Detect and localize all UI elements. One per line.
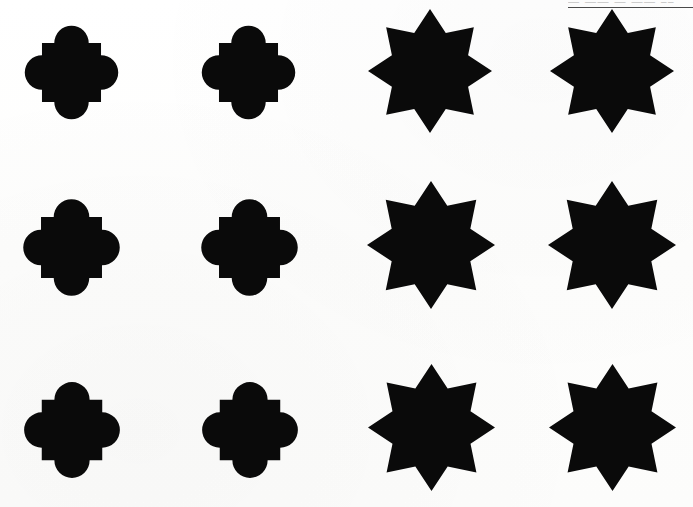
- lobed-square-path: [202, 26, 295, 119]
- octagram-star-shape-r3c3: [368, 364, 495, 491]
- lobed-square-glyph: [9, 367, 135, 493]
- lobed-square-shape-r3c2: [187, 367, 313, 493]
- octagram-star-shape-r1c3: [368, 9, 492, 133]
- octagram-star-path: [368, 364, 495, 491]
- octagram-star-glyph: [548, 181, 676, 309]
- octagram-star-glyph: [368, 364, 495, 491]
- lobed-square-path: [23, 199, 120, 296]
- lobed-square-shape-r1c1: [10, 11, 133, 134]
- header-rule: [568, 7, 693, 8]
- lobed-square-glyph: [186, 184, 313, 311]
- lobed-square-shape-r2c2: [186, 184, 313, 311]
- lobed-square-glyph: [187, 367, 313, 493]
- octagram-star-path: [548, 181, 676, 309]
- octagram-star-path: [368, 9, 492, 133]
- octagram-star-shape-r3c4: [549, 364, 676, 491]
- octagram-star-glyph: [549, 364, 676, 491]
- lobed-square-glyph: [187, 11, 310, 134]
- lobed-square-path: [25, 26, 118, 119]
- octagram-star-shape-r2c4: [548, 181, 676, 309]
- octagram-star-glyph: [367, 181, 495, 309]
- clipped-header-text: — —— — —— ––: [568, 0, 693, 6]
- octagram-star-glyph: [368, 9, 492, 133]
- octagram-star-path: [550, 9, 674, 133]
- octagram-star-path: [549, 364, 676, 491]
- lobed-square-shape-r2c1: [8, 184, 135, 311]
- page-canvas: — —— — —— ––: [0, 0, 693, 507]
- octagram-star-shape-r1c4: [550, 9, 674, 133]
- lobed-square-path: [202, 382, 298, 478]
- lobed-square-shape-r1c2: [187, 11, 310, 134]
- octagram-star-shape-r2c3: [367, 181, 495, 309]
- lobed-square-glyph: [8, 184, 135, 311]
- lobed-square-shape-r3c1: [9, 367, 135, 493]
- lobed-square-path: [201, 199, 298, 296]
- lobed-square-glyph: [10, 11, 133, 134]
- octagram-star-path: [367, 181, 495, 309]
- lobed-square-path: [24, 382, 120, 478]
- octagram-star-glyph: [550, 9, 674, 133]
